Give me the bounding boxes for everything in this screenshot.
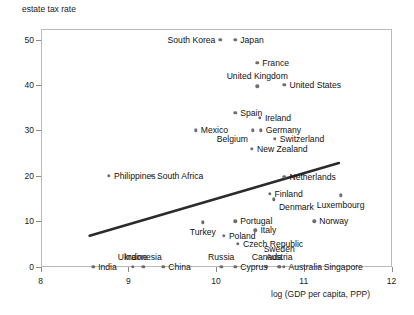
y-tick-mark-40 <box>36 85 41 86</box>
point-label-south-africa: South Africa <box>157 171 203 181</box>
y-tick-mark-30 <box>36 130 41 131</box>
x-tick-mark-9 <box>128 267 129 272</box>
point-label-belgium: Belgium <box>217 134 248 144</box>
data-point-indonesia[interactable] <box>141 265 144 268</box>
point-label-austria: Austria <box>266 252 293 262</box>
y-tick-label-20: 20 <box>12 171 34 181</box>
point-label-turkey: Turkey <box>190 227 216 237</box>
point-label-italy: Italy <box>260 225 276 235</box>
point-label-finland: Finland <box>275 189 303 199</box>
y-tick-label-50: 50 <box>12 35 34 45</box>
point-label-denmark: Denmark <box>279 202 314 212</box>
point-label-luxembourg: Luxembourg <box>317 200 365 210</box>
point-label-united-kingdom: United Kingdom <box>227 71 288 81</box>
point-label-russia: Russia <box>208 252 234 262</box>
point-label-france: France <box>262 58 289 68</box>
data-point-australia[interactable] <box>282 265 285 268</box>
point-label-japan: Japan <box>240 35 263 45</box>
point-label-cyprus: Cyprus <box>240 262 267 272</box>
x-axis-title: log (GDP per capita, PPP) <box>271 289 370 299</box>
point-label-new-zealand: New Zealand <box>257 144 308 154</box>
plot-frame <box>41 29 392 267</box>
y-tick-label-0: 0 <box>12 262 34 272</box>
data-point-austria[interactable] <box>277 265 280 268</box>
data-point-cyprus[interactable] <box>234 265 237 268</box>
y-tick-mark-20 <box>36 176 41 177</box>
point-label-china: China <box>168 262 190 272</box>
point-label-indonesia: Indonesia <box>125 252 162 262</box>
x-tick-mark-8 <box>41 267 42 272</box>
x-tick-label-8: 8 <box>31 276 51 286</box>
chart-page: estate tax rate 50403020100 89101112 Sou… <box>0 0 414 315</box>
point-label-norway: Norway <box>319 216 348 226</box>
y-tick-mark-50 <box>36 40 41 41</box>
x-tick-label-12: 12 <box>382 276 402 286</box>
point-label-south-korea: South Korea <box>168 35 216 45</box>
x-tick-mark-12 <box>392 267 393 272</box>
x-tick-mark-10 <box>216 267 217 272</box>
y-tick-mark-10 <box>36 221 41 222</box>
y-axis-title: estate tax rate <box>22 4 76 14</box>
x-tick-label-11: 11 <box>294 276 314 286</box>
point-label-singapore: Singapore <box>324 262 363 272</box>
point-label-united-states: United States <box>289 80 341 90</box>
data-point-china[interactable] <box>162 265 165 268</box>
x-tick-label-10: 10 <box>206 276 226 286</box>
point-label-switzerland: Switzerland <box>280 134 324 144</box>
point-label-netherlands: Netherlands <box>289 172 335 182</box>
x-tick-label-9: 9 <box>118 276 138 286</box>
data-point-india[interactable] <box>91 265 94 268</box>
point-label-ireland: Ireland <box>265 113 291 123</box>
data-point-russia[interactable] <box>220 265 223 268</box>
data-point-ukraine[interactable] <box>131 265 134 268</box>
y-tick-label-30: 30 <box>12 125 34 135</box>
y-tick-label-40: 40 <box>12 80 34 90</box>
point-label-india: India <box>98 262 117 272</box>
y-tick-label-10: 10 <box>12 216 34 226</box>
